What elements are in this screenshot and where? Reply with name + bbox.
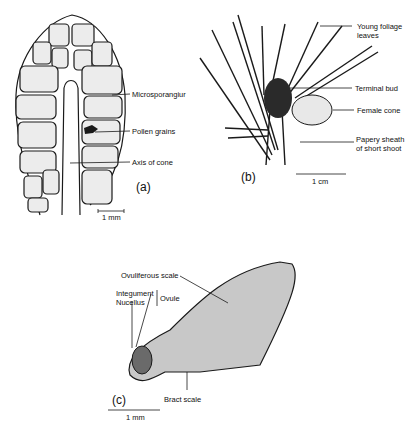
terminal-bud-shape (264, 78, 292, 118)
label-integument: Integument (116, 289, 154, 298)
label-terminal-bud: Terminal bud (355, 84, 398, 93)
label-ovule: Ovule (160, 294, 180, 303)
scale-bar-a-label: 1 mm (102, 213, 121, 222)
label-nucellus: Nucellus (116, 298, 145, 307)
panel-label-c: (c) (112, 393, 126, 407)
label-pollen-grains: Pollen grains (132, 127, 175, 136)
label-bract-scale: Bract scale (164, 395, 201, 404)
scale-bar-c-label: 1 mm (126, 413, 145, 422)
label-young-foliage: Young foliage (357, 22, 402, 31)
label-axis-of-cone: Axis of cone (132, 158, 173, 167)
label-leaves: leaves (357, 31, 379, 40)
panel-label-a: (a) (136, 180, 151, 194)
nucellus-shape (132, 346, 152, 374)
scale-bar-b-label: 1 cm (312, 177, 328, 186)
male-cone-section (16, 15, 125, 215)
figure-drawing (0, 0, 415, 436)
label-female-cone: Female cone (357, 106, 400, 115)
label-short-shoot: of short shoot (356, 144, 401, 153)
label-microsporangium: Microsporangiur (132, 90, 186, 99)
female-cone-shape (292, 95, 332, 125)
label-ovuliferous-scale: Ovuliferous scale (121, 271, 179, 280)
label-papery-sheath: Papery sheath (356, 135, 404, 144)
panel-label-b: (b) (241, 170, 256, 184)
